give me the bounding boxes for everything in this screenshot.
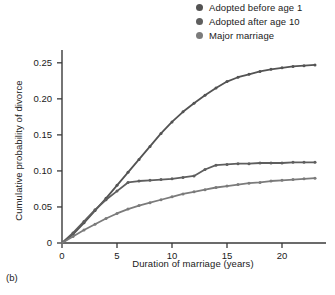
y-tick-label: 0.25 xyxy=(22,57,52,68)
y-axis-title: Cumulative probability of divorce xyxy=(13,51,24,251)
y-tick-label: 0.15 xyxy=(22,129,52,140)
y-tick-label: 0.20 xyxy=(22,93,52,104)
figure-panel: Adopted before age 1 Adopted after age 1… xyxy=(0,0,335,295)
y-tick-label: 0.10 xyxy=(22,165,52,176)
y-tick-label: 0 xyxy=(22,237,52,248)
panel-tag: (b) xyxy=(6,272,18,283)
y-tick-label: 0.05 xyxy=(22,201,52,212)
x-axis-title: Duration of marriage (years) xyxy=(62,258,324,269)
